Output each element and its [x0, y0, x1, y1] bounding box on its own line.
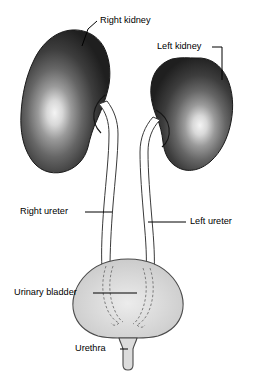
- urinary-system-illustration: Right kidney Left kidney Right ureter Le…: [0, 0, 256, 378]
- urinary-system-diagram: Right kidney Left kidney Right ureter Le…: [0, 0, 256, 378]
- label-left-ureter: Left ureter: [190, 216, 232, 226]
- label-left-kidney: Left kidney: [157, 41, 202, 51]
- bladder-shape: [73, 259, 183, 338]
- label-right-ureter: Right ureter: [20, 206, 68, 216]
- label-urinary-bladder: Urinary bladder: [14, 287, 77, 297]
- label-urethra: Urethra: [75, 343, 107, 353]
- urinary-bladder-organ: [73, 259, 183, 338]
- label-right-kidney: Right kidney: [100, 15, 151, 25]
